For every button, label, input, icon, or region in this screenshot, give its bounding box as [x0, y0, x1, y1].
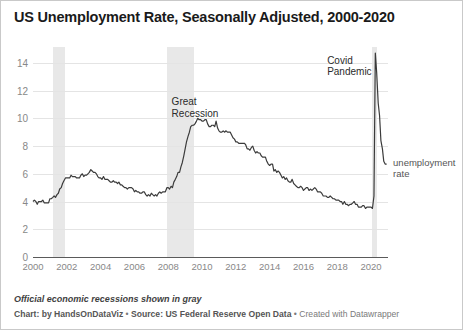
- annotation-covid-pandemic: Covid Pandemic: [327, 55, 371, 78]
- y-axis-tick-8: 8: [22, 141, 28, 152]
- x-axis-tick-2012: 2012: [225, 261, 246, 272]
- chart-card: US Unemployment Rate, Seasonally Adjuste…: [0, 0, 463, 330]
- y-axis-tick-12: 12: [17, 85, 28, 96]
- footer-sep-1: •: [123, 309, 131, 319]
- y-axis-tick-14: 14: [17, 57, 28, 68]
- x-axis-tick-2008: 2008: [158, 261, 179, 272]
- annotation-great-recession: Great Recession: [172, 96, 219, 119]
- x-axis-tick-2004: 2004: [90, 261, 111, 272]
- footer-credit: Chart: by HandsOnDataViz • Source: US Fe…: [14, 309, 399, 319]
- y-axis-tick-10: 10: [17, 113, 28, 124]
- y-axis-tick-6: 6: [22, 168, 28, 179]
- footer-credit-source: Source: US Federal Reserve Open Data: [131, 309, 291, 319]
- footer-credit-author: Chart: by HandsOnDataViz: [14, 309, 123, 319]
- x-axis-tick-2010: 2010: [191, 261, 212, 272]
- footer-note: Official economic recessions shown in gr…: [14, 294, 201, 304]
- x-axis-tick-2002: 2002: [56, 261, 77, 272]
- series-layer: [33, 49, 388, 257]
- x-axis-tick-2016: 2016: [293, 261, 314, 272]
- x-axis-tick-2020: 2020: [361, 261, 382, 272]
- page-title: US Unemployment Rate, Seasonally Adjuste…: [14, 9, 395, 25]
- y-axis-tick-2: 2: [22, 224, 28, 235]
- y-axis-tick-4: 4: [22, 196, 28, 207]
- footer-credit-tool: Created with Datawrapper: [299, 309, 399, 319]
- annotation-series-label: unemployment rate: [393, 157, 455, 179]
- x-axis-tick-2018: 2018: [327, 261, 348, 272]
- plot-area: 0246810121420002002200420062008201020122…: [33, 49, 388, 257]
- x-axis-tick-2014: 2014: [259, 261, 280, 272]
- x-axis-tick-2000: 2000: [22, 261, 43, 272]
- x-axis-tick-2006: 2006: [124, 261, 145, 272]
- gridline-y-0: [33, 257, 388, 258]
